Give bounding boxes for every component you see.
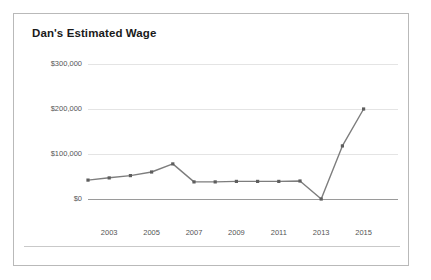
data-line	[88, 109, 364, 199]
data-point-marker	[320, 197, 323, 200]
data-point-marker	[298, 179, 301, 182]
data-point-marker	[235, 180, 238, 183]
data-point-marker	[150, 170, 153, 173]
data-point-marker	[277, 180, 280, 183]
chart-container: Dan's Estimated Wage $0$100,000$200,000$…	[13, 13, 409, 266]
data-point-marker	[214, 180, 217, 183]
plot-area: $0$100,000$200,000$300,00020032005200720…	[14, 14, 410, 267]
data-point-marker	[192, 180, 195, 183]
data-point-marker	[129, 174, 132, 177]
data-point-marker	[362, 107, 365, 110]
data-series-layer	[14, 14, 410, 267]
data-point-marker	[108, 176, 111, 179]
data-point-marker	[86, 179, 89, 182]
data-point-marker	[171, 162, 174, 165]
data-point-marker	[256, 180, 259, 183]
data-point-marker	[341, 144, 344, 147]
